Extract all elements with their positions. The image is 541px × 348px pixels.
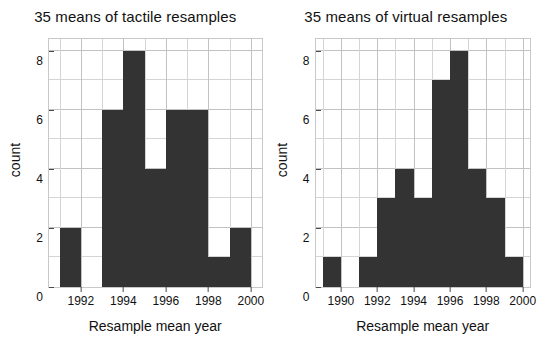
- x-axis-tick-label: 1998: [473, 295, 500, 308]
- x-axis-tick-label: 2000: [509, 295, 536, 308]
- x-axis-tick-label: 1990: [328, 295, 355, 308]
- x-axis-tick-label: 1996: [437, 295, 464, 308]
- histogram-bar: [359, 257, 377, 287]
- x-axis-title: Resample mean year: [0, 318, 271, 334]
- x-axis-tick-label: 1994: [400, 295, 427, 308]
- histogram-bar: [450, 51, 468, 287]
- histogram-bar: [230, 228, 251, 287]
- x-axis-tick-label: 2000: [238, 295, 265, 308]
- y-axis-tick-mark: [49, 110, 54, 111]
- x-axis-tick-mark: [450, 287, 451, 292]
- bars-tactile: [49, 39, 262, 287]
- x-axis-tick-mark: [165, 287, 166, 292]
- page-title: 35 means of tactile resamples: [0, 8, 271, 26]
- x-axis-tick: 1998: [473, 287, 500, 308]
- x-axis-tick-label: 1998: [195, 295, 222, 308]
- x-axis-tick-label: 1996: [153, 295, 180, 308]
- x-axis-tick-label: 1992: [68, 295, 95, 308]
- y-axis-tick-label: 4: [36, 173, 49, 185]
- histogram-bar: [414, 198, 432, 287]
- x-axis-tick-mark: [413, 287, 414, 292]
- x-axis-tick: 2000: [238, 287, 265, 308]
- plot-area-virtual: 02468 199019921994199619982000: [315, 38, 532, 288]
- x-axis-tactile: 19921994199619982000: [49, 287, 262, 317]
- x-axis-tick: 1990: [328, 287, 355, 308]
- x-axis-tick-label: 1994: [110, 295, 137, 308]
- histogram-bar: [123, 51, 144, 287]
- x-axis-tick: 1994: [400, 287, 427, 308]
- x-axis-tick-label: 1992: [364, 295, 391, 308]
- x-axis-tick-mark: [377, 287, 378, 292]
- page-title: 35 means of virtual resamples: [271, 8, 541, 26]
- x-axis-tick-mark: [340, 287, 341, 292]
- x-axis-tick-mark: [250, 287, 251, 292]
- panel-virtual-resamples: 35 means of virtual resamples 02468 1990…: [271, 0, 541, 348]
- y-axis-tick-label: 8: [36, 55, 49, 67]
- histogram-bar: [323, 257, 341, 287]
- histogram-bar: [486, 198, 504, 287]
- y-axis-tick-label: 2: [36, 232, 49, 244]
- y-axis-tick-label: 6: [303, 114, 316, 126]
- x-axis-tick: 1996: [153, 287, 180, 308]
- x-axis-tick: 1992: [364, 287, 391, 308]
- histogram-bar: [187, 110, 208, 287]
- x-axis-title: Resample mean year: [271, 318, 541, 334]
- y-axis-title: count: [7, 143, 23, 177]
- histogram-bar: [145, 169, 166, 287]
- histogram-bar: [432, 80, 450, 287]
- histogram-bar: [208, 257, 229, 287]
- x-axis-tick: 1998: [195, 287, 222, 308]
- y-axis-tick-mark: [49, 51, 54, 52]
- y-axis-tick-mark: [316, 110, 321, 111]
- y-axis-tick-mark: [316, 51, 321, 52]
- y-axis-tick-mark: [49, 169, 54, 170]
- x-axis-tick-mark: [208, 287, 209, 292]
- y-axis-tick-label: 2: [303, 232, 316, 244]
- x-axis-tick-mark: [522, 287, 523, 292]
- histogram-bar: [377, 198, 395, 287]
- y-axis-tick-label: 0: [36, 291, 49, 303]
- plot-area-tactile: 02468 19921994199619982000: [48, 38, 263, 288]
- histogram-figure: 35 means of tactile resamples 02468 1992…: [0, 0, 541, 348]
- y-axis-tick-mark: [316, 228, 321, 229]
- y-axis-title: count: [274, 143, 290, 177]
- y-axis-tick-label: 4: [303, 173, 316, 185]
- x-axis-tick-mark: [123, 287, 124, 292]
- y-axis-tick-mark: [49, 228, 54, 229]
- histogram-bar: [505, 257, 523, 287]
- x-axis-tick: 1992: [68, 287, 95, 308]
- x-axis-tick: 1996: [437, 287, 464, 308]
- histogram-bar: [166, 110, 187, 287]
- bars-virtual: [316, 39, 531, 287]
- panel-tactile-resamples: 35 means of tactile resamples 02468 1992…: [0, 0, 271, 348]
- y-axis-tick-label: 0: [303, 291, 316, 303]
- y-axis-tick-mark: [316, 169, 321, 170]
- histogram-bar: [395, 169, 413, 287]
- histogram-bar: [60, 228, 81, 287]
- y-axis-tick-label: 6: [36, 114, 49, 126]
- x-axis-virtual: 199019921994199619982000: [316, 287, 531, 317]
- x-axis-tick-mark: [486, 287, 487, 292]
- y-axis-tick-label: 8: [303, 55, 316, 67]
- x-axis-tick: 1994: [110, 287, 137, 308]
- histogram-bar: [468, 169, 486, 287]
- histogram-bar: [102, 110, 123, 287]
- x-axis-tick-mark: [80, 287, 81, 292]
- x-axis-tick: 2000: [509, 287, 536, 308]
